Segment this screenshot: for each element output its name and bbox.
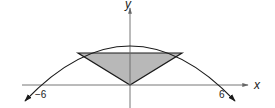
tick-label-6: 6 [219,89,225,100]
y-axis-label: y [124,0,132,11]
diagram-canvas: y x −6 6 [0,0,275,108]
parabola-triangle-diagram: y x −6 6 [0,0,275,108]
x-axis-label: x [253,78,261,92]
tick-label-neg6: −6 [35,89,47,100]
